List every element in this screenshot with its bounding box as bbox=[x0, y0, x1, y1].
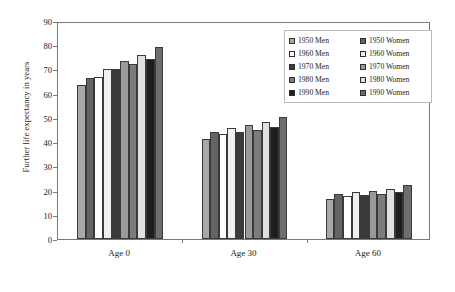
legend-item: 1950 Women bbox=[360, 34, 427, 47]
bar bbox=[279, 117, 288, 239]
legend-item: 1990 Women bbox=[360, 86, 427, 99]
legend-label: 1990 Women bbox=[369, 89, 409, 97]
legend-swatch-icon bbox=[289, 64, 295, 70]
bar bbox=[334, 194, 343, 239]
y-axis-tick-mark bbox=[53, 46, 57, 47]
y-axis-tick-label: 30 bbox=[44, 162, 53, 172]
legend-item: 1970 Women bbox=[360, 60, 427, 73]
y-axis-tick-mark bbox=[53, 22, 57, 23]
legend: 1950 Men1950 Women1960 Men1960 Women1970… bbox=[284, 30, 432, 103]
legend-item: 1960 Women bbox=[360, 47, 427, 60]
legend-swatch-icon bbox=[360, 77, 366, 83]
bar bbox=[395, 192, 404, 239]
legend-item: 1980 Women bbox=[360, 73, 427, 86]
legend-label: 1950 Women bbox=[369, 37, 409, 45]
legend-label: 1980 Men bbox=[298, 76, 329, 84]
bar-group-age-30 bbox=[202, 23, 288, 239]
bar bbox=[227, 128, 236, 239]
y-axis-tick-mark bbox=[53, 167, 57, 168]
legend-swatch-icon bbox=[289, 51, 295, 57]
legend-swatch-icon bbox=[360, 90, 366, 96]
legend-item: 1950 Men bbox=[289, 34, 356, 47]
bar bbox=[245, 125, 254, 239]
bar-group-age-0 bbox=[77, 23, 163, 239]
y-axis-tick-mark bbox=[53, 240, 57, 241]
y-axis-tick-mark bbox=[53, 119, 57, 120]
bar bbox=[137, 55, 146, 239]
legend-swatch-icon bbox=[289, 38, 295, 44]
bar bbox=[112, 69, 121, 239]
x-axis-tick-mark bbox=[182, 239, 183, 243]
y-axis-tick-label: 60 bbox=[44, 90, 53, 100]
legend-swatch-icon bbox=[360, 51, 366, 57]
bar bbox=[236, 132, 245, 239]
bar bbox=[386, 189, 395, 239]
bar bbox=[270, 127, 279, 239]
legend-item: 1980 Men bbox=[289, 73, 356, 86]
x-axis-label: Age 60 bbox=[355, 248, 381, 258]
legend-label: 1980 Women bbox=[369, 76, 409, 84]
legend-label: 1960 Women bbox=[369, 50, 409, 58]
bar bbox=[403, 185, 412, 239]
y-axis-tick-label: 20 bbox=[44, 187, 53, 197]
legend-label: 1990 Men bbox=[298, 89, 329, 97]
bar-chart: Further life expectancy in years 0102030… bbox=[0, 0, 455, 292]
y-axis-tick-label: 0 bbox=[48, 235, 52, 245]
y-axis-tick-mark bbox=[53, 95, 57, 96]
bar bbox=[219, 134, 228, 239]
bar bbox=[377, 194, 386, 239]
bar bbox=[86, 78, 95, 239]
y-axis-tick-label: 40 bbox=[44, 138, 53, 148]
y-axis-title: Further life expectancy in years bbox=[21, 17, 31, 217]
legend-item: 1970 Men bbox=[289, 60, 356, 73]
legend-item: 1960 Men bbox=[289, 47, 356, 60]
bar bbox=[369, 191, 378, 239]
y-axis-tick-label: 70 bbox=[44, 65, 53, 75]
y-axis-tick-label: 80 bbox=[44, 41, 53, 51]
y-axis-tick-label: 90 bbox=[44, 17, 53, 27]
legend-swatch-icon bbox=[360, 64, 366, 70]
bar bbox=[262, 122, 271, 239]
bar bbox=[343, 196, 352, 239]
legend-swatch-icon bbox=[289, 90, 295, 96]
y-axis-tick-mark bbox=[53, 70, 57, 71]
legend-label: 1970 Men bbox=[298, 63, 329, 71]
x-axis-tick-mark bbox=[307, 239, 308, 243]
bar bbox=[202, 139, 211, 239]
bar bbox=[360, 195, 369, 239]
legend-item: 1990 Men bbox=[289, 86, 356, 99]
bar bbox=[210, 132, 219, 239]
bar bbox=[352, 192, 361, 239]
y-axis-tick-label: 10 bbox=[44, 211, 53, 221]
bar bbox=[253, 130, 262, 239]
x-axis-label: Age 0 bbox=[108, 248, 130, 258]
y-axis-tick-mark bbox=[53, 192, 57, 193]
y-axis-tick-mark bbox=[53, 216, 57, 217]
bar bbox=[77, 85, 86, 239]
x-axis-label: Age 30 bbox=[230, 248, 256, 258]
bar bbox=[326, 199, 335, 239]
y-axis-tick-label: 50 bbox=[44, 114, 53, 124]
bar bbox=[94, 77, 103, 239]
legend-label: 1960 Men bbox=[298, 50, 329, 58]
legend-swatch-icon bbox=[360, 38, 366, 44]
legend-swatch-icon bbox=[289, 77, 295, 83]
bar bbox=[120, 61, 129, 239]
bar bbox=[155, 47, 164, 239]
legend-label: 1970 Women bbox=[369, 63, 409, 71]
y-axis-tick-mark bbox=[53, 143, 57, 144]
bar bbox=[103, 69, 112, 239]
bar bbox=[129, 64, 138, 239]
bar bbox=[146, 59, 155, 239]
legend-label: 1950 Men bbox=[298, 37, 329, 45]
